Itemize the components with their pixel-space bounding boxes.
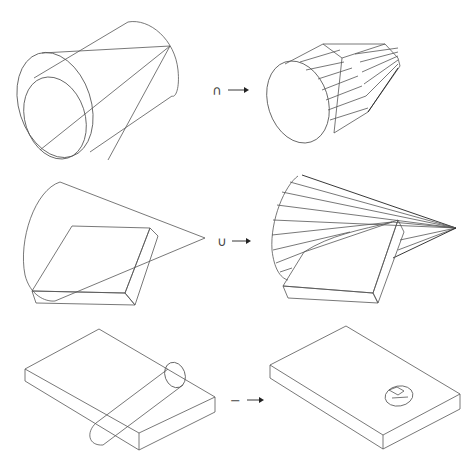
intersection-input-shapes	[4, 22, 178, 168]
intersection-operator: ∩	[212, 83, 222, 98]
arrow-icon	[228, 87, 249, 93]
arrow-icon	[247, 397, 264, 403]
difference-input-shapes	[25, 329, 215, 450]
union-input-shapes	[23, 182, 205, 305]
intersection-result-shape	[256, 44, 400, 151]
difference-result-shape	[270, 326, 460, 449]
union-operator: ∪	[217, 234, 227, 249]
arrow-icon	[232, 238, 251, 244]
difference-operator: −	[230, 393, 241, 408]
union-result-shape	[272, 175, 456, 303]
csg-diagram: ∩ ∪	[0, 0, 476, 469]
